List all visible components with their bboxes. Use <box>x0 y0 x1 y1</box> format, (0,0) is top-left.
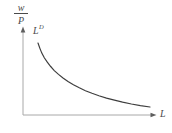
x-axis-label: L <box>160 108 166 119</box>
labor-demand-curve <box>38 43 150 107</box>
curve-label-superscript: D <box>39 23 44 30</box>
y-axis-arrow-up-icon <box>21 27 26 33</box>
y-axis-label-denominator: P <box>14 14 28 26</box>
y-axis-label: w P <box>14 2 28 26</box>
y-axis-label-numerator: w <box>14 2 28 14</box>
labor-demand-figure: w P LD L <box>0 0 172 133</box>
x-axis-arrow-right-icon <box>151 113 157 118</box>
curve-label-base: L <box>33 25 39 36</box>
curve-label: LD <box>33 24 43 36</box>
